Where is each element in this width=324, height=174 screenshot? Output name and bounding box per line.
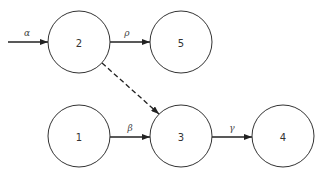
edge-label-rho: ρ [123, 28, 130, 38]
edge-2-5: ρ [110, 28, 150, 42]
node-3: 3 [150, 105, 212, 167]
node-label-2: 2 [76, 38, 82, 49]
edge-label-alpha: α [24, 28, 30, 38]
node-5: 5 [150, 11, 212, 73]
node-label-3: 3 [178, 132, 184, 143]
edge-label-gamma: γ [229, 123, 235, 133]
graph-diagram: α ρ β γ 2 5 1 3 4 [0, 0, 324, 174]
node-label-4: 4 [280, 132, 286, 143]
edge-2-3-dashed [102, 63, 159, 114]
edge-label-beta: β [126, 123, 132, 133]
node-label-1: 1 [76, 132, 82, 143]
edge-3-4: γ [212, 123, 252, 137]
edge-input-2: α [8, 28, 48, 42]
node-1: 1 [48, 105, 110, 167]
node-label-5: 5 [178, 38, 184, 49]
node-2: 2 [48, 11, 110, 73]
node-4: 4 [252, 105, 314, 167]
edge-1-3: β [110, 123, 150, 137]
